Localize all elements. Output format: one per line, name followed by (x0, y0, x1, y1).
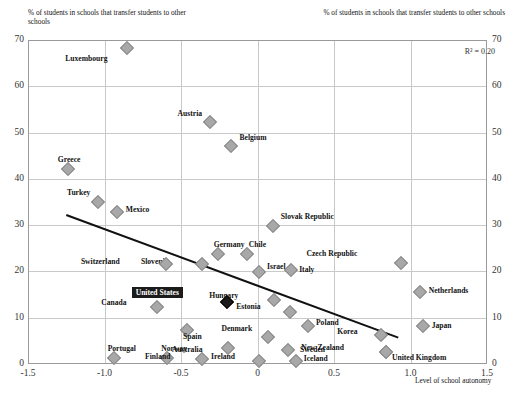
y-axis-tick-label: 0 (2, 358, 24, 368)
data-point-label: New Zealand (301, 343, 344, 352)
data-point-label: Spain (183, 332, 202, 341)
y-axis-tick-label: 20 (2, 265, 24, 275)
chart-canvas: % of students in schools that transfer s… (0, 0, 517, 401)
x-axis-tick-label: 0 (238, 368, 278, 378)
y-axis-tick-label: 40 (2, 173, 24, 183)
y-axis-tick-label: 0 (492, 358, 514, 368)
x-axis-tick-label: 0.5 (314, 368, 354, 378)
y-axis-note-right: % of students in schools that transfer s… (315, 8, 505, 17)
data-point-label: Netherlands (429, 286, 469, 295)
r-squared-annotation: R² = 0.20 (465, 47, 495, 56)
x-axis-tick-label: 1.0 (391, 368, 431, 378)
data-point-label: Estonia (236, 302, 260, 311)
y-axis-tick-label: 50 (492, 127, 514, 137)
y-axis-note-left: % of students in schools that transfer s… (28, 8, 208, 27)
x-axis-tick-label: -0.5 (161, 368, 201, 378)
data-point-label: Norway (161, 344, 187, 353)
data-point-label: United Kingdom (392, 353, 446, 362)
data-point-label: Czech Republic (306, 249, 357, 258)
data-point-label: Ireland (211, 352, 235, 361)
data-point-label: Poland (316, 318, 339, 327)
data-point-label: Luxembourg (65, 54, 107, 63)
data-point-label: Switzerland (81, 257, 120, 266)
x-axis-tick-label: -1.5 (8, 368, 48, 378)
data-point-label: Chile (249, 240, 266, 249)
data-point-label: Austria (178, 109, 202, 118)
data-point-label: Iceland (304, 354, 328, 363)
data-point-label: Korea (337, 327, 357, 336)
y-axis-tick-label: 20 (492, 265, 514, 275)
y-axis-tick-label: 30 (492, 219, 514, 229)
y-axis-tick-label: 30 (2, 219, 24, 229)
x-axis-tick-label: 1.5 (467, 368, 507, 378)
data-point-label: Canada (101, 298, 126, 307)
data-point-label: Greece (58, 155, 81, 164)
gridline-vertical (334, 41, 335, 363)
gridline-vertical (411, 41, 412, 363)
y-axis-tick-label: 50 (2, 127, 24, 137)
data-point-label: Turkey (67, 188, 90, 197)
y-axis-tick-label: 60 (2, 80, 24, 90)
data-point-label: Slovak Republic (281, 212, 334, 221)
y-axis-tick-label: 70 (2, 34, 24, 44)
gridline-vertical (258, 41, 259, 363)
data-point-label: Denmark (221, 324, 252, 333)
y-axis-tick-label: 40 (492, 173, 514, 183)
data-point-label: Portugal (108, 344, 136, 353)
y-axis-tick-label: 70 (492, 34, 514, 44)
data-point-label: United States (132, 287, 183, 298)
data-point-label: Finland (145, 352, 170, 361)
y-axis-tick-label: 10 (492, 312, 514, 322)
x-axis-tick-label: -1.0 (85, 368, 125, 378)
data-point-label: Belgium (239, 133, 266, 142)
data-point-label: Germany (214, 240, 245, 249)
data-point-label: Italy (299, 265, 314, 274)
data-point-label: Hungary (209, 291, 238, 300)
y-axis-tick-label: 10 (2, 312, 24, 322)
y-axis-tick-label: 60 (492, 80, 514, 90)
data-point-label: Mexico (126, 205, 150, 214)
gridline-vertical (181, 41, 182, 363)
data-point-label: Japan (432, 321, 452, 330)
